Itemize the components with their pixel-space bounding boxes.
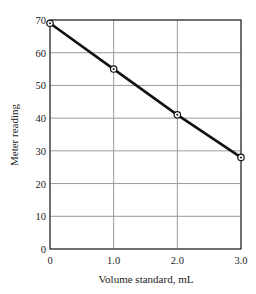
data-point-center [240, 156, 242, 158]
y-tick-label: 30 [36, 146, 47, 157]
y-tick-label: 50 [36, 80, 47, 91]
grid-lines [50, 20, 241, 249]
y-tick-label: 0 [41, 244, 46, 255]
x-tick-label: 1.0 [107, 255, 120, 266]
x-tick-label: 2.0 [171, 255, 184, 266]
y-tick-labels: 010203040506070 [36, 15, 47, 255]
data-point-center [49, 22, 51, 24]
y-tick-label: 10 [36, 211, 47, 222]
y-tick-label: 40 [36, 113, 47, 124]
data-point-center [113, 68, 115, 70]
x-tick-label: 0 [47, 255, 52, 266]
y-tick-label: 70 [36, 15, 47, 26]
x-tick-labels: 01.02.03.0 [47, 255, 247, 266]
x-tick-label: 3.0 [234, 255, 247, 266]
line-chart: 010203040506070 01.02.03.0 Volume standa… [0, 0, 256, 294]
y-tick-label: 20 [36, 179, 47, 190]
y-axis-label: Meter reading [8, 104, 20, 166]
y-tick-label: 60 [36, 48, 47, 59]
data-line [50, 23, 241, 157]
data-point-center [176, 114, 178, 116]
plot-frame [50, 20, 241, 249]
x-axis-label: Volume standard, mL [99, 273, 194, 285]
